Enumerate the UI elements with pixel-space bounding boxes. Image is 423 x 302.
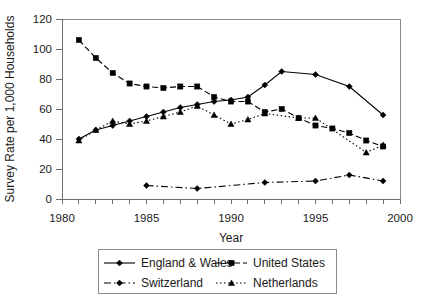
survey-rate-line-chart: 120 100 80 60 40 20 0 1980 1985 1990 199… xyxy=(0,0,423,302)
data-series-layer xyxy=(76,37,386,191)
x-axis-title: Year xyxy=(219,231,243,245)
data-point-1 xyxy=(313,123,318,128)
series-line xyxy=(79,40,383,147)
legend-item-england-wales[interactable]: England & Wales xyxy=(104,256,233,270)
x-tick-label-2000: 2000 xyxy=(387,212,413,224)
data-point-1 xyxy=(279,106,284,111)
data-point-1 xyxy=(178,84,183,89)
data-point-1 xyxy=(347,130,352,135)
data-point-3 xyxy=(143,118,149,124)
y-axis-ticks xyxy=(56,19,62,199)
data-point-2 xyxy=(313,178,319,184)
data-point-1 xyxy=(93,55,98,60)
data-point-1 xyxy=(364,138,369,143)
x-axis-minor-ticks xyxy=(62,199,400,204)
data-point-1 xyxy=(144,84,149,89)
y-tick-label-120: 120 xyxy=(33,13,52,25)
data-point-2 xyxy=(380,178,386,184)
data-point-2 xyxy=(144,183,150,189)
y-tick-label-20: 20 xyxy=(39,163,52,175)
data-point-1 xyxy=(110,70,115,75)
y-axis-tick-labels: 120 100 80 60 40 20 0 xyxy=(33,13,52,205)
x-tick-label-1995: 1995 xyxy=(303,212,329,224)
data-point-2 xyxy=(262,180,268,186)
series-netherlands xyxy=(76,103,386,155)
data-point-legend xyxy=(117,260,123,266)
data-point-3 xyxy=(211,112,217,118)
y-tick-label-60: 60 xyxy=(39,103,52,115)
data-point-0 xyxy=(313,72,319,78)
y-axis-title: Survey Rate per 1,000 Households xyxy=(3,16,17,203)
data-point-3 xyxy=(363,149,369,155)
y-tick-label-80: 80 xyxy=(39,73,52,85)
y-tick-label-0: 0 xyxy=(46,193,52,205)
series-line xyxy=(79,72,383,140)
legend-label: United States xyxy=(253,256,325,270)
legend-label: Switzerland xyxy=(141,276,203,290)
data-point-1 xyxy=(76,37,81,42)
x-tick-label-1980: 1980 xyxy=(49,212,75,224)
x-tick-label-1985: 1985 xyxy=(134,212,160,224)
data-point-1 xyxy=(212,94,217,99)
data-point-1 xyxy=(127,81,132,86)
legend-item-netherlands[interactable]: Netherlands xyxy=(216,276,318,290)
data-point-2 xyxy=(194,186,200,192)
chart-container: 120 100 80 60 40 20 0 1980 1985 1990 199… xyxy=(0,0,423,302)
data-point-2 xyxy=(346,172,352,178)
series-united-states xyxy=(76,37,385,149)
legend-item-switzerland[interactable]: Switzerland xyxy=(104,276,203,290)
y-tick-label-100: 100 xyxy=(33,43,52,55)
x-tick-label-1990: 1990 xyxy=(218,212,244,224)
legend-label: Netherlands xyxy=(253,276,318,290)
data-point-3 xyxy=(110,118,116,124)
data-point-legend xyxy=(117,280,123,286)
data-point-3 xyxy=(228,121,234,127)
data-point-1 xyxy=(228,99,233,104)
x-axis-tick-labels: 1980 1985 1990 1995 2000 xyxy=(49,212,413,224)
data-point-1 xyxy=(245,99,250,104)
series-line xyxy=(79,106,383,153)
legend-entries: England & WalesUnited StatesSwitzerlandN… xyxy=(104,256,325,290)
data-point-1 xyxy=(195,84,200,89)
data-point-legend xyxy=(229,260,234,265)
series-switzerland xyxy=(144,172,387,192)
data-point-1 xyxy=(161,85,166,90)
data-point-3 xyxy=(177,109,183,115)
y-tick-label-40: 40 xyxy=(39,133,52,145)
